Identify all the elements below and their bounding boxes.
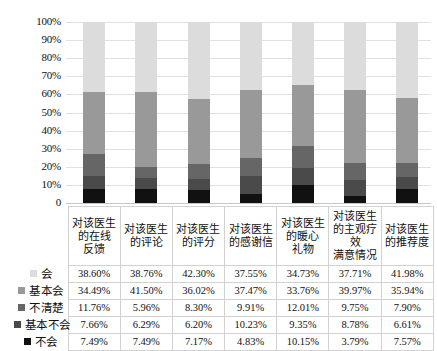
data-cell: 8.30% — [172, 300, 224, 317]
bar-segment — [188, 190, 210, 203]
legend-entry: 基本会 — [4, 283, 68, 300]
data-cell: 5.96% — [120, 300, 172, 317]
column-header: 对该医生的在线反馈 — [68, 207, 120, 266]
table-row: 会38.60%38.76%42.30%37.55%34.73%37.71%41.… — [4, 266, 433, 283]
data-cell: 9.75% — [329, 300, 381, 317]
bar-segment — [292, 85, 314, 146]
legend-swatch-icon — [30, 270, 37, 277]
data-cell: 34.73% — [277, 266, 329, 283]
y-axis-tick-label: 20% — [1, 161, 61, 172]
bar-segment — [83, 176, 105, 190]
data-cell: 37.71% — [329, 266, 381, 283]
bar-segment — [344, 22, 366, 90]
data-cell: 7.57% — [381, 334, 433, 351]
legend-label: 不清楚 — [29, 301, 63, 315]
bar-segment — [135, 189, 157, 203]
table-row: 不清楚11.76%5.96%8.30%9.91%12.01%9.75%7.90% — [4, 300, 433, 317]
bar-column — [292, 22, 314, 203]
bar-segment — [83, 22, 105, 92]
bar-segment — [240, 158, 262, 176]
bar-segment — [188, 179, 210, 190]
y-axis-tick-label: 50% — [1, 107, 61, 118]
bar-segment — [344, 90, 366, 162]
bar-segment — [240, 176, 262, 195]
bar-segment — [83, 189, 105, 203]
bar-segment — [344, 163, 366, 181]
bar-segment — [135, 178, 157, 189]
column-header-line: 对该医生 — [122, 223, 171, 236]
column-header-line: 的评论 — [122, 236, 171, 249]
data-cell: 10.23% — [225, 317, 277, 334]
column-header-line: 对该医生 — [383, 223, 432, 236]
y-axis-tick-label: 30% — [1, 143, 61, 154]
data-cell: 37.47% — [225, 283, 277, 300]
bar-segment — [240, 90, 262, 158]
bar-segment — [344, 180, 366, 196]
y-axis-tick-label: 10% — [1, 179, 61, 190]
legend-label: 不会 — [35, 335, 58, 349]
data-cell: 34.49% — [68, 283, 120, 300]
column-header-line: 对该医生 — [226, 223, 275, 236]
legend-entry: 会 — [4, 266, 68, 283]
data-cell: 6.20% — [172, 317, 224, 334]
column-header: 对该医生的评论 — [120, 207, 172, 266]
bar-segment — [83, 92, 105, 154]
data-cell: 39.97% — [329, 283, 381, 300]
column-header-line: 的暖心 — [278, 230, 327, 243]
column-header-line: 满意情况 — [330, 249, 379, 262]
legend-entry: 不会 — [4, 334, 68, 351]
column-header-line: 的在线 — [70, 230, 119, 243]
bar-segment — [188, 22, 210, 99]
bar-column — [188, 22, 210, 203]
data-cell: 38.60% — [68, 266, 120, 283]
data-cell: 9.91% — [225, 300, 277, 317]
column-header: 对该医生的暖心礼物 — [277, 207, 329, 266]
legend-swatch-icon — [24, 338, 31, 345]
column-header-line: 的推荐度 — [383, 236, 432, 249]
bar-segment — [344, 196, 366, 203]
y-axis-tick-label: 60% — [1, 88, 61, 99]
column-header: 对该医生的推荐度 — [381, 207, 433, 266]
data-cell: 7.49% — [68, 334, 120, 351]
data-cell: 11.76% — [68, 300, 120, 317]
data-cell: 41.50% — [120, 283, 172, 300]
data-cell: 37.55% — [225, 266, 277, 283]
bar-segment — [396, 163, 418, 177]
y-axis-tick-label: 40% — [1, 125, 61, 136]
data-cell: 12.01% — [277, 300, 329, 317]
data-cell: 38.76% — [120, 266, 172, 283]
data-cell: 6.61% — [381, 317, 433, 334]
column-header: 对该医生的主观疗效满意情况 — [329, 207, 381, 266]
column-header-line: 对该医生 — [278, 217, 327, 230]
data-cell: 41.98% — [381, 266, 433, 283]
stacked-bars — [66, 0, 431, 206]
legend-swatch-icon — [18, 287, 25, 294]
bar-segment — [396, 98, 418, 163]
bar-column — [240, 22, 262, 203]
data-cell: 7.49% — [120, 334, 172, 351]
data-cell: 7.66% — [68, 317, 120, 334]
data-cell: 4.83% — [225, 334, 277, 351]
bar-segment — [396, 22, 418, 98]
legend-label: 会 — [41, 267, 52, 281]
column-header-line: 的主观疗效 — [330, 223, 379, 249]
legend-entry: 基本不会 — [4, 317, 68, 334]
legend-label: 基本会 — [29, 284, 63, 298]
column-header-line: 对该医生 — [70, 217, 119, 230]
y-axis: 010%20%30%40%50%60%70%80%90%100% — [0, 0, 66, 206]
data-cell: 42.30% — [172, 266, 224, 283]
bar-segment — [135, 22, 157, 92]
data-cell: 10.15% — [277, 334, 329, 351]
column-header-line: 的感谢信 — [226, 236, 275, 249]
bar-segment — [292, 185, 314, 203]
data-cell: 8.78% — [329, 317, 381, 334]
table-row: 基本不会7.66%6.29%6.20%10.23%9.35%8.78%6.61% — [4, 317, 433, 334]
bar-segment — [292, 146, 314, 168]
bar-segment — [240, 22, 262, 90]
bar-segment — [188, 164, 210, 179]
data-cell: 3.79% — [329, 334, 381, 351]
column-header-line: 反馈 — [70, 243, 119, 256]
bar-segment — [135, 92, 157, 167]
legend-swatch-icon — [18, 304, 25, 311]
